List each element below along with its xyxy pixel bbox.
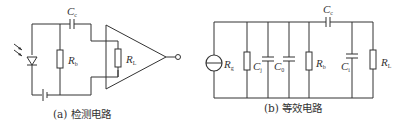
caption-b: (b) 等效电路 bbox=[264, 100, 322, 115]
input-capacitor bbox=[346, 54, 358, 58]
label-ci: Ci bbox=[341, 60, 350, 73]
load-resistor-a bbox=[115, 49, 121, 67]
label-c0: C0 bbox=[274, 60, 284, 73]
label-rb-b: Rb bbox=[315, 57, 326, 70]
battery bbox=[43, 89, 47, 101]
label-rl-a: RL bbox=[125, 53, 137, 66]
coupling-capacitor-b bbox=[326, 17, 330, 27]
equivalent-circuit: Rg Cj C0 Rb Cc Ci RL bbox=[206, 3, 392, 98]
source-resistor bbox=[244, 52, 250, 70]
label-rl-b: RL bbox=[380, 56, 392, 69]
label-rg: Rg bbox=[223, 58, 234, 71]
current-source bbox=[206, 55, 222, 71]
bias-resistor-a bbox=[57, 50, 63, 68]
label-rb-a: Rb bbox=[67, 54, 78, 67]
label-cj: Cj bbox=[253, 60, 262, 73]
detection-circuit: Cc Rb RL bbox=[14, 5, 181, 101]
coupling-capacitor-a bbox=[70, 19, 74, 29]
output-terminal bbox=[176, 55, 181, 60]
caption-a: (a) 检测电路 bbox=[53, 106, 111, 121]
label-cc-b: Cc bbox=[323, 3, 333, 16]
distributed-capacitor bbox=[283, 57, 295, 61]
bias-resistor-b bbox=[306, 52, 312, 70]
photodiode bbox=[14, 44, 37, 65]
junction-capacitor bbox=[262, 57, 274, 61]
label-cc-a: Cc bbox=[67, 5, 77, 18]
load-resistor-b bbox=[370, 50, 376, 69]
